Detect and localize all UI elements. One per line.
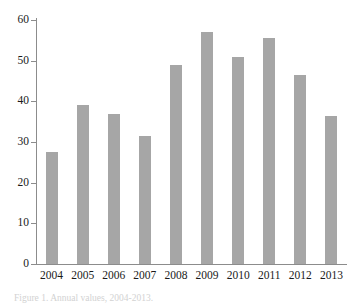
x-tick-label-2006: 2006: [98, 268, 129, 282]
x-tick-label-2013: 2013: [316, 268, 347, 282]
y-tick-label-30: 30: [0, 136, 29, 148]
x-tick-label-2012: 2012: [285, 268, 316, 282]
bar[interactable]: [232, 57, 244, 264]
x-axis-tick-labels: 2004200520062007200820092010201120122013: [36, 268, 347, 284]
bar[interactable]: [139, 136, 151, 264]
bar[interactable]: [201, 32, 213, 264]
bar-slot: [316, 18, 347, 264]
y-tick-label-20: 20: [0, 177, 29, 189]
figure-caption: Figure 1. Annual values, 2004-2013.: [14, 293, 344, 304]
bar[interactable]: [77, 105, 89, 264]
bar-slot: [98, 18, 129, 264]
y-tick-label-10: 10: [0, 217, 29, 229]
bar[interactable]: [294, 75, 306, 264]
y-tick-label-0: 0: [0, 258, 29, 270]
bar-slot: [67, 18, 98, 264]
bar-chart-figure: 0102030405060 20042005200620072008200920…: [0, 0, 354, 304]
x-tick-label-2005: 2005: [67, 268, 98, 282]
y-tick-label-50: 50: [0, 55, 29, 67]
chart-plot-area: 0102030405060 20042005200620072008200920…: [0, 0, 354, 304]
bar-slot: [192, 18, 223, 264]
bar[interactable]: [325, 116, 337, 264]
x-tick-label-2009: 2009: [192, 268, 223, 282]
y-tick-0: [31, 264, 36, 265]
bar-slot: [160, 18, 191, 264]
bar[interactable]: [263, 38, 275, 264]
bar[interactable]: [170, 65, 182, 264]
y-tick-label-40: 40: [0, 95, 29, 107]
bar-slot: [223, 18, 254, 264]
x-tick-label-2007: 2007: [129, 268, 160, 282]
bar-series: [36, 18, 347, 264]
bar-slot: [285, 18, 316, 264]
bar-slot: [36, 18, 67, 264]
bar-slot: [254, 18, 285, 264]
bar[interactable]: [46, 152, 58, 264]
x-tick-label-2008: 2008: [160, 268, 191, 282]
x-tick-label-2011: 2011: [254, 268, 285, 282]
x-tick-label-2010: 2010: [223, 268, 254, 282]
y-tick-label-60: 60: [0, 14, 29, 26]
bar-slot: [129, 18, 160, 264]
bar[interactable]: [108, 114, 120, 264]
x-axis-line: [36, 264, 347, 265]
x-tick-label-2004: 2004: [36, 268, 67, 282]
